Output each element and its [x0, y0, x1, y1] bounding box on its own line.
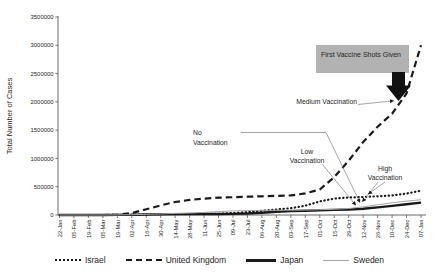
x-tick-label: 20-Aug [274, 220, 280, 239]
sweden-line-sample [323, 260, 349, 261]
high-vaccination-leader-line-1 [363, 182, 379, 202]
israel-line-sample [55, 259, 81, 261]
high-vaccination-label-line1: High [378, 165, 392, 173]
japan-line-sample [246, 259, 276, 262]
legend-item-united-kingdom: United Kingdom [126, 255, 226, 265]
legend-item-israel: Israel [55, 255, 106, 265]
y-tick-label: 2000000 [31, 99, 55, 105]
x-tick-label: 25-Jun [216, 220, 222, 238]
legend-label-japan: Japan [280, 255, 303, 265]
x-tick-label: 26-Nov [375, 219, 381, 238]
low-vaccination-label-line2: Vaccination [290, 157, 325, 164]
series-line-israel [60, 191, 422, 215]
x-tick-label: 03-Sep [288, 220, 294, 239]
legend-label-sweden: Sweden [353, 255, 384, 265]
x-axis-ticks: 22-Jan05-Feb19-Feb05-Mar19-Mar02-Apr16-A… [57, 215, 425, 239]
x-tick-label: 22-Jan [57, 220, 63, 238]
x-tick-label: 01-Oct [317, 219, 323, 237]
x-tick-label: 06-Aug [259, 220, 265, 239]
y-tick-label: 1000000 [31, 156, 55, 162]
legend-label-united-kingdom: United Kingdom [166, 255, 226, 265]
low-vaccination-label-line1: Low [301, 148, 314, 155]
x-tick-label: 12-Nov [361, 219, 367, 238]
x-tick-label: 24-Dec [404, 219, 410, 238]
no-vaccination-label-line1: No [193, 129, 202, 136]
chart-figure: 0500000100000015000002000000250000030000… [0, 0, 439, 276]
x-tick-label: 29-Oct [346, 219, 352, 237]
y-axis-title: Total Number of Cases [5, 78, 14, 155]
y-tick-label: 1500000 [31, 127, 55, 133]
y-tick-label: 500000 [34, 184, 54, 190]
legend-item-sweden: Sweden [323, 255, 384, 265]
first-vaccine-callout-label: First Vaccine Shots Given [321, 51, 401, 58]
legend-item-japan: Japan [246, 255, 303, 265]
legend-label-israel: Israel [85, 255, 106, 265]
x-tick-label: 19-Mar [115, 219, 121, 237]
x-tick-label: 17-Sep [303, 220, 309, 239]
x-tick-label: 05-Feb [71, 220, 77, 238]
y-tick-label: 3500000 [31, 14, 55, 20]
series-line-japan [60, 203, 422, 215]
y-axis-ticks: 0500000100000015000002000000250000030000… [31, 14, 58, 218]
x-tick-label: 28-May [187, 219, 193, 238]
first-vaccine-callout-box [316, 45, 409, 73]
high-vaccination-label-line2: Vaccination [368, 174, 403, 181]
down-arrow-icon [386, 72, 411, 101]
y-tick-label: 3000000 [31, 42, 55, 48]
x-tick-label: 07-Jan [418, 220, 424, 238]
x-tick-label: 30-Apr [158, 219, 164, 236]
x-tick-label: 02-Apr [129, 219, 135, 236]
x-tick-label: 05-Mar [100, 219, 106, 237]
x-tick-label: 10-Dec [389, 219, 395, 238]
x-tick-label: 15-Oct [332, 219, 338, 237]
no-vaccination-label-line2: Vaccination [193, 139, 228, 146]
legend: Israel United Kingdom Japan Sweden [0, 250, 439, 270]
chart-svg: 0500000100000015000002000000250000030000… [0, 0, 439, 276]
x-tick-label: 09-Jul [230, 220, 236, 236]
medium-vaccination-label: Medium Vaccination [296, 98, 357, 105]
x-tick-label: 11-Jun [202, 220, 208, 237]
y-tick-label: 0 [50, 212, 54, 218]
x-tick-label: 19-Feb [86, 220, 92, 238]
x-tick-label: 14-May [173, 219, 179, 238]
united-kingdom-line-sample [126, 259, 162, 261]
y-tick-label: 2500000 [31, 71, 55, 77]
medium-vaccination-leader-line [358, 101, 394, 105]
x-tick-label: 23-Jul [245, 220, 251, 236]
x-tick-label: 16-Apr [144, 219, 150, 236]
